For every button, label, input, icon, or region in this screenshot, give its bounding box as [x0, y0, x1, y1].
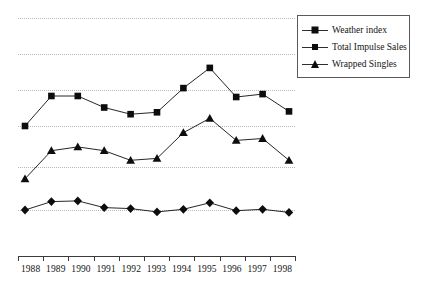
legend-marker-triangle-icon [302, 58, 328, 70]
legend-label-total-impulse-sales: Total Impulse Sales [332, 41, 407, 53]
x-axis-tick [245, 256, 246, 261]
marker-diamond [232, 206, 240, 215]
legend-item-total-impulse-sales[interactable]: Total Impulse Sales [302, 38, 404, 55]
x-axis-tick [295, 256, 296, 261]
marker-square [75, 93, 82, 100]
x-axis-tick [169, 256, 170, 261]
legend-label-weather-index: Weather index [332, 24, 387, 36]
marker-diamond [21, 206, 29, 215]
marker-square [101, 104, 108, 111]
x-axis-tick [220, 256, 221, 261]
x-axis-label: 1991 [96, 264, 115, 274]
series-line [25, 118, 289, 179]
marker-square [22, 123, 29, 130]
marker-square [207, 65, 214, 72]
x-axis-label: 1995 [197, 264, 216, 274]
marker-square [180, 85, 187, 92]
series-line [25, 68, 289, 126]
marker-triangle [205, 114, 214, 122]
marker-diamond [258, 205, 266, 214]
legend-marker-square-icon [302, 41, 328, 53]
chart-figure: 1988198919901991199219931994199519961997… [0, 0, 422, 288]
series-layer [18, 18, 295, 258]
marker-triangle [258, 134, 267, 142]
marker-diamond [153, 208, 161, 217]
marker-square [259, 91, 266, 98]
marker-diamond [100, 203, 108, 212]
series-wrapped-singles [21, 114, 294, 182]
x-axis-labels: 1988198919901991199219931994199519961997… [18, 264, 295, 282]
marker-diamond [179, 205, 187, 214]
marker-square [233, 94, 240, 101]
x-axis-line [18, 256, 295, 257]
marker-triangle [73, 143, 82, 151]
marker-diamond [206, 198, 214, 207]
marker-square [286, 108, 293, 115]
marker-square [154, 109, 161, 116]
marker-diamond [74, 197, 82, 206]
x-axis-label: 1998 [273, 264, 292, 274]
marker-square [48, 93, 55, 100]
legend-label-wrapped-singles: Wrapped Singles [332, 58, 397, 70]
x-axis-tick [119, 256, 120, 261]
series-total-impulse-sales [22, 65, 293, 130]
marker-triangle [179, 128, 188, 136]
legend-marker-diamond-icon [302, 24, 328, 36]
x-axis-label: 1993 [147, 264, 166, 274]
x-axis-label: 1990 [71, 264, 90, 274]
x-axis-tick [68, 256, 69, 261]
x-axis-tick [18, 256, 19, 261]
series-weather-index [21, 197, 293, 217]
x-axis-label: 1997 [247, 264, 266, 274]
x-axis-tick [270, 256, 271, 261]
marker-diamond [285, 208, 293, 217]
x-axis-label: 1994 [172, 264, 191, 274]
x-axis-tick [144, 256, 145, 261]
plot-area [18, 18, 295, 258]
x-axis-label: 1988 [21, 264, 40, 274]
x-axis-label: 1989 [46, 264, 65, 274]
marker-square [127, 111, 134, 118]
x-axis-tick [194, 256, 195, 261]
x-axis-tick [94, 256, 95, 261]
marker-diamond [126, 204, 134, 213]
x-axis-label: 1996 [222, 264, 241, 274]
legend-item-weather-index[interactable]: Weather index [302, 21, 404, 38]
legend: Weather index Total Impulse Sales Wrappe… [297, 15, 410, 78]
marker-diamond [47, 197, 55, 206]
legend-item-wrapped-singles[interactable]: Wrapped Singles [302, 55, 404, 72]
x-axis-tick [43, 256, 44, 261]
marker-triangle [285, 156, 294, 164]
x-axis-label: 1992 [122, 264, 141, 274]
